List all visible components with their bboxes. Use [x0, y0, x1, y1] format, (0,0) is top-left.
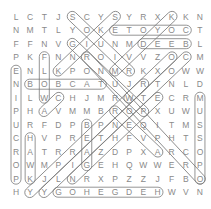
grid-letter[interactable]: G — [66, 37, 80, 50]
grid-letter[interactable]: B — [23, 78, 37, 91]
grid-letter[interactable]: P — [122, 145, 136, 158]
grid-letter[interactable]: A — [23, 145, 37, 158]
grid-letter[interactable]: C — [165, 91, 179, 104]
grid-letter[interactable]: S — [193, 118, 207, 131]
grid-letter[interactable]: J — [151, 172, 165, 185]
grid-letter[interactable]: N — [9, 24, 23, 37]
grid-letter[interactable]: Y — [122, 10, 136, 23]
grid-letter[interactable]: P — [66, 64, 80, 77]
grid-letter[interactable]: H — [66, 91, 80, 104]
grid-letter[interactable]: E — [94, 186, 108, 199]
grid-letter[interactable]: F — [23, 37, 37, 50]
grid-letter[interactable]: L — [51, 24, 65, 37]
grid-letter[interactable]: L — [193, 37, 207, 50]
grid-letter[interactable]: N — [94, 64, 108, 77]
grid-letter[interactable]: E — [108, 24, 122, 37]
grid-letter[interactable]: Z — [94, 145, 108, 158]
grid-letter[interactable]: E — [151, 91, 165, 104]
grid-letter[interactable]: R — [51, 145, 65, 158]
grid-letter[interactable]: O — [165, 51, 179, 64]
grid-letter[interactable]: V — [51, 105, 65, 118]
grid-letter[interactable]: V — [51, 37, 65, 50]
grid-letter[interactable]: R — [136, 78, 150, 91]
grid-letter[interactable]: T — [151, 78, 165, 91]
grid-letter[interactable]: H — [23, 132, 37, 145]
grid-letter[interactable]: N — [66, 51, 80, 64]
grid-letter[interactable]: N — [51, 51, 65, 64]
grid-letter[interactable]: N — [23, 64, 37, 77]
grid-letter[interactable]: O — [165, 24, 179, 37]
grid-letter[interactable]: D — [122, 186, 136, 199]
grid-letter[interactable]: P — [9, 172, 23, 185]
grid-letter[interactable]: R — [165, 145, 179, 158]
grid-letter[interactable]: G — [51, 186, 65, 199]
grid-letter[interactable]: O — [193, 145, 207, 158]
grid-letter[interactable]: N — [66, 172, 80, 185]
grid-letter[interactable]: E — [122, 118, 136, 131]
grid-letter[interactable]: P — [193, 159, 207, 172]
grid-letter[interactable]: J — [80, 91, 94, 104]
grid-letter[interactable]: U — [94, 37, 108, 50]
grid-letter[interactable]: H — [80, 186, 94, 199]
grid-letter[interactable]: H — [165, 132, 179, 145]
grid-letter[interactable]: C — [23, 10, 37, 23]
grid-letter[interactable]: F — [122, 132, 136, 145]
grid-letter[interactable]: Y — [37, 186, 51, 199]
grid-letter[interactable]: T — [37, 10, 51, 23]
grid-letter[interactable]: V — [122, 51, 136, 64]
grid-letter[interactable]: I — [108, 51, 122, 64]
grid-letter[interactable]: O — [122, 105, 136, 118]
grid-letter[interactable]: P — [108, 172, 122, 185]
grid-letter[interactable]: W — [179, 105, 193, 118]
grid-letter[interactable]: N — [9, 78, 23, 91]
grid-letter[interactable]: R — [80, 51, 94, 64]
grid-letter[interactable]: C — [51, 91, 65, 104]
grid-letter[interactable]: H — [108, 159, 122, 172]
grid-letter[interactable]: O — [94, 51, 108, 64]
grid-letter[interactable]: O — [165, 64, 179, 77]
grid-letter[interactable]: N — [37, 37, 51, 50]
grid-letter[interactable]: M — [37, 159, 51, 172]
grid-letter[interactable]: L — [23, 91, 37, 104]
grid-letter[interactable]: M — [193, 91, 207, 104]
grid-letter[interactable]: N — [193, 186, 207, 199]
grid-letter[interactable]: P — [51, 159, 65, 172]
grid-letter[interactable]: T — [136, 91, 150, 104]
grid-letter[interactable]: M — [94, 91, 108, 104]
grid-letter[interactable]: M — [80, 105, 94, 118]
grid-letter[interactable]: E — [165, 37, 179, 50]
grid-letter[interactable]: B — [80, 118, 94, 131]
grid-letter[interactable]: E — [80, 132, 94, 145]
grid-letter[interactable]: P — [66, 118, 80, 131]
grid-letter[interactable]: Y — [23, 186, 37, 199]
grid-letter[interactable]: E — [165, 159, 179, 172]
grid-letter[interactable]: P — [51, 132, 65, 145]
grid-letter[interactable]: O — [37, 78, 51, 91]
grid-letter[interactable]: K — [51, 64, 65, 77]
grid-letter[interactable]: K — [23, 172, 37, 185]
grid-letter[interactable]: O — [136, 24, 150, 37]
grid-letter[interactable]: I — [80, 37, 94, 50]
grid-letter[interactable]: N — [108, 37, 122, 50]
grid-letter[interactable]: X — [136, 145, 150, 158]
grid-letter[interactable]: R — [179, 91, 193, 104]
grid-letter[interactable]: M — [108, 64, 122, 77]
grid-letter[interactable]: U — [193, 105, 207, 118]
grid-letter[interactable]: M — [66, 105, 80, 118]
grid-letter[interactable]: O — [66, 186, 80, 199]
grid-letter[interactable]: R — [23, 118, 37, 131]
grid-letter[interactable]: P — [9, 105, 23, 118]
grid-letter[interactable]: P — [94, 118, 108, 131]
grid-letter[interactable]: G — [80, 159, 94, 172]
grid-letter[interactable]: Z — [122, 172, 136, 185]
grid-letter[interactable]: R — [9, 145, 23, 158]
grid-letter[interactable]: S — [193, 132, 207, 145]
grid-letter[interactable]: A — [151, 145, 165, 158]
grid-letter[interactable]: R — [66, 132, 80, 145]
grid-letter[interactable]: S — [108, 10, 122, 23]
grid-letter[interactable]: B — [179, 37, 193, 50]
grid-letter[interactable]: V — [136, 51, 150, 64]
grid-letter[interactable]: L — [9, 10, 23, 23]
grid-letter[interactable]: L — [37, 64, 51, 77]
grid-letter[interactable]: K — [179, 10, 193, 23]
